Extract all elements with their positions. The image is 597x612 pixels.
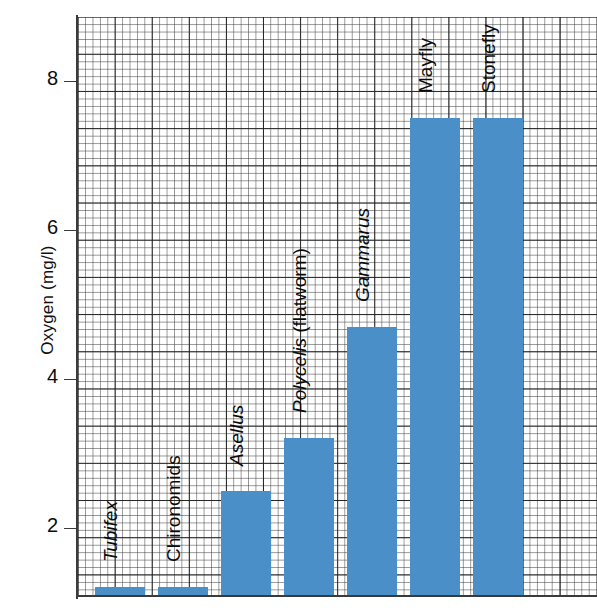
bar-category-label: Chironomids — [164, 456, 183, 563]
bar — [347, 327, 397, 595]
y-tick-label: 6 — [22, 216, 58, 239]
y-tick-mark — [64, 81, 77, 82]
y-tick-mark — [64, 230, 77, 231]
y-tick-label: 8 — [22, 67, 58, 90]
bar-category-label: Tubifex — [101, 501, 120, 562]
x-axis-line — [78, 595, 597, 597]
species-name: Polycelis — [289, 338, 310, 413]
bar-category-label: Stonefly — [479, 25, 498, 94]
bar — [410, 118, 460, 595]
oxygen-bar-chart: Oxygen (mg/l) 2468 TubifexChironomidsAse… — [0, 0, 597, 612]
bar — [473, 118, 523, 595]
plot-area: TubifexChironomidsAsellusPolycelis (flat… — [78, 17, 597, 597]
bar — [158, 587, 208, 595]
common-name: Mayfly — [415, 38, 436, 93]
bar — [95, 587, 145, 595]
bar-category-label: Mayfly — [416, 38, 435, 93]
bar-category-label: Gammarus — [353, 208, 372, 302]
bar — [284, 438, 334, 595]
y-tick-label: 4 — [22, 365, 58, 388]
bar-category-label: Polycelis (flatworm) — [290, 249, 309, 414]
species-name: Gammarus — [352, 208, 373, 302]
common-name: Chironomids — [163, 456, 184, 563]
species-name: Asellus — [226, 404, 247, 465]
y-tick-mark — [64, 528, 77, 529]
bar — [221, 491, 271, 595]
common-name: (flatworm) — [289, 249, 310, 339]
species-name: Tubifex — [100, 501, 121, 562]
y-tick-label: 2 — [22, 514, 58, 537]
bar-category-label: Asellus — [227, 404, 246, 465]
common-name: Stonefly — [478, 25, 499, 94]
y-tick-mark — [64, 379, 77, 380]
